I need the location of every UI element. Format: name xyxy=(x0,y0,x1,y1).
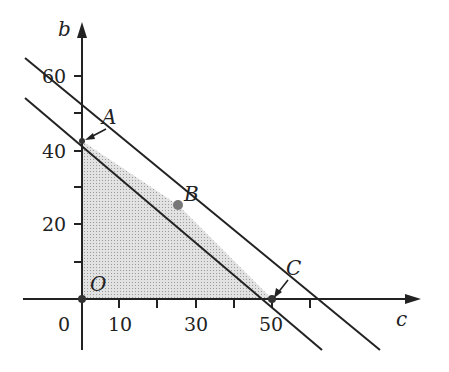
point-A-label: A xyxy=(100,105,116,129)
point-O-marker xyxy=(78,295,86,303)
point-C-label: C xyxy=(286,256,301,280)
point-O-label: O xyxy=(90,272,106,296)
x-tick-label-50: 50 xyxy=(259,313,283,335)
x-axis-arrow-icon xyxy=(405,294,421,304)
y-tick-label-20: 20 xyxy=(42,213,66,235)
x-tick-label-30: 30 xyxy=(184,313,208,335)
point-B-label: B xyxy=(183,182,199,206)
point-A-arrow-icon xyxy=(85,129,106,140)
x-tick-label-10: 10 xyxy=(108,313,132,335)
y-axis-label: b xyxy=(58,17,71,41)
constraint-line-1 xyxy=(25,58,380,350)
y-tick-label-40: 40 xyxy=(42,140,66,162)
point-C-arrow-icon xyxy=(274,280,288,298)
y-tick-label-60: 60 xyxy=(42,65,66,87)
point-B-marker xyxy=(173,200,183,210)
y-axis-arrow-icon xyxy=(77,22,87,38)
diagram-canvas: 60 40 20 0 10 30 50 b c O A B C xyxy=(0,0,449,372)
point-A-marker xyxy=(79,138,85,144)
origin-label: 0 xyxy=(58,313,70,335)
x-axis-label: c xyxy=(396,307,407,331)
feasible-region xyxy=(82,141,272,299)
x-ticks xyxy=(119,299,310,308)
